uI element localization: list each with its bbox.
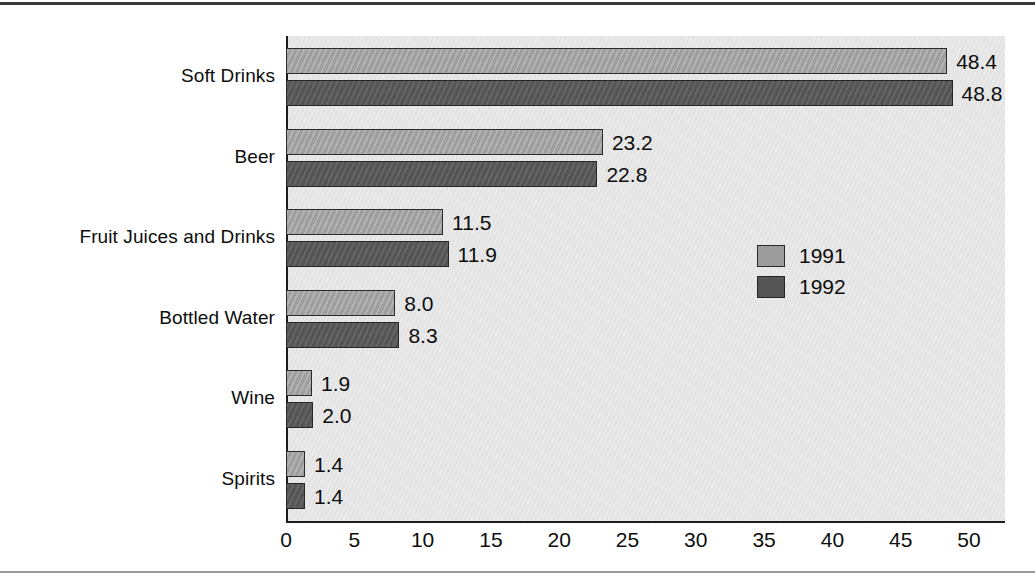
x-tick-label: 15 [479, 528, 502, 552]
bar-1991 [286, 48, 947, 74]
x-tick-label: 10 [411, 528, 434, 552]
x-tick-label: 0 [280, 528, 292, 552]
bar-value-label: 11.9 [458, 242, 497, 268]
bar-value-label: 11.5 [452, 210, 491, 236]
x-tick-label: 30 [684, 528, 707, 552]
legend-item-1991: 1991 [757, 240, 846, 271]
plot-area-background [286, 36, 1005, 521]
bar-1992 [286, 402, 313, 428]
category-label: Soft Drinks [181, 65, 275, 87]
x-tick-label: 20 [548, 528, 571, 552]
bar-1992 [286, 80, 953, 106]
chart-legend: 1991 1992 [757, 240, 846, 302]
bar-value-label: 1.4 [314, 452, 343, 478]
bar-value-label: 2.0 [322, 403, 351, 429]
x-tick-label: 5 [348, 528, 360, 552]
x-tick-label: 40 [821, 528, 844, 552]
x-tick-label: 25 [616, 528, 639, 552]
bar-value-label: 23.2 [612, 130, 653, 156]
x-tick-label: 35 [752, 528, 775, 552]
category-label: Bottled Water [159, 307, 275, 329]
legend-label-1991: 1991 [799, 244, 846, 268]
legend-swatch-icon-1991 [757, 245, 785, 267]
bar-value-label: 8.0 [404, 291, 433, 317]
bar-value-label: 1.9 [321, 371, 350, 397]
bar-value-label: 48.8 [962, 81, 1003, 107]
bar-1991 [286, 290, 395, 316]
bar-value-label: 8.3 [408, 323, 437, 349]
bar-1992 [286, 322, 399, 348]
category-label: Beer [234, 146, 275, 168]
bar-1992 [286, 241, 449, 267]
bar-1991 [286, 451, 305, 477]
page: Soft DrinksBeerFruit Juices and DrinksBo… [0, 0, 1035, 586]
x-tick-label: 50 [957, 528, 980, 552]
bar-value-label: 22.8 [606, 162, 647, 188]
bar-1991 [286, 129, 603, 155]
bar-1991 [286, 209, 443, 235]
x-tick-label: 45 [889, 528, 912, 552]
category-label: Spirits [222, 468, 276, 490]
legend-item-1992: 1992 [757, 271, 846, 302]
bar-value-label: 1.4 [314, 484, 343, 510]
bar-1992 [286, 161, 597, 187]
bar-1992 [286, 483, 305, 509]
legend-label-1992: 1992 [799, 275, 846, 299]
y-axis-line [286, 36, 288, 522]
bar-1991 [286, 370, 312, 396]
x-axis-line [286, 521, 1005, 523]
category-label: Wine [231, 387, 275, 409]
horizontal-bar-chart: Soft DrinksBeerFruit Juices and DrinksBo… [0, 0, 1035, 586]
legend-swatch-icon-1992 [757, 276, 785, 298]
bar-value-label: 48.4 [956, 49, 997, 75]
category-label: Fruit Juices and Drinks [79, 226, 275, 248]
